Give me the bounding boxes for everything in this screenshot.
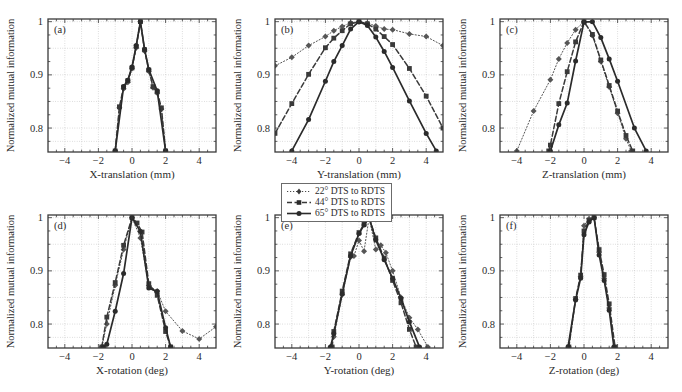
legend-item-1: 44° DTS to RDTS bbox=[286, 197, 385, 208]
series-dotted bbox=[327, 215, 430, 350]
x-tick-label: −2 bbox=[545, 155, 556, 166]
y-tick-label: 1 bbox=[265, 212, 270, 223]
x-tick-label: 2 bbox=[163, 351, 168, 362]
y-tick-label: 0.8 bbox=[482, 319, 495, 330]
y-tick-label: 0.8 bbox=[482, 123, 495, 134]
y-tick-label: 0.8 bbox=[30, 319, 43, 330]
gridlines bbox=[48, 215, 216, 348]
y-axis-title: Normalized mutual information bbox=[457, 18, 468, 152]
legend-item-0: 22° DTS to RDTS bbox=[286, 186, 385, 197]
legend-label-2: 65° DTS to RDTS bbox=[315, 208, 385, 219]
series-dashed bbox=[566, 215, 617, 349]
panel-letter: (f) bbox=[506, 220, 517, 232]
legend-label-1: 44° DTS to RDTS bbox=[315, 197, 385, 208]
x-tick-label: 4 bbox=[424, 351, 430, 362]
gridlines bbox=[48, 19, 216, 152]
x-tick-label: −4 bbox=[59, 155, 71, 166]
x-tick-label: 2 bbox=[163, 155, 168, 166]
legend-line-sample-solid bbox=[286, 208, 312, 219]
y-tick-label: 1 bbox=[38, 212, 43, 223]
legend-line-sample-dashed bbox=[286, 197, 312, 208]
y-axis-title: Normalized mutual information bbox=[457, 214, 468, 348]
legend-item-2: 65° DTS to RDTS bbox=[286, 208, 385, 219]
plot-(e): −4−202410.90.8Y-rotation (deg)Normalized… bbox=[227, 196, 449, 392]
x-tick-label: 0 bbox=[356, 155, 361, 166]
y-axis-title: Normalized mutual information bbox=[232, 214, 243, 348]
x-tick-label: 0 bbox=[356, 351, 361, 362]
x-tick-label: 0 bbox=[129, 351, 134, 362]
legend: 22° DTS to RDTS 44° DTS to RDTS 65° DTS … bbox=[281, 183, 392, 222]
x-axis-title: Y-rotation (deg) bbox=[324, 364, 395, 377]
panel-b: −4−202410.90.8Y-translation (mm)Normaliz… bbox=[227, 0, 449, 196]
x-tick-label: 4 bbox=[649, 155, 655, 166]
series-dotted bbox=[566, 215, 617, 350]
y-tick-label: 1 bbox=[490, 16, 495, 27]
y-tick-label: 0.8 bbox=[257, 319, 270, 330]
panel-letter: (d) bbox=[54, 220, 67, 232]
y-tick-label: 0.9 bbox=[30, 69, 43, 80]
plot-(b): −4−202410.90.8Y-translation (mm)Normaliz… bbox=[227, 0, 449, 196]
x-tick-label: −4 bbox=[511, 351, 523, 362]
y-tick-label: 0.9 bbox=[30, 265, 43, 276]
panel-letter: (b) bbox=[281, 24, 294, 36]
y-tick-label: 0.9 bbox=[257, 265, 270, 276]
x-tick-label: −2 bbox=[93, 351, 104, 362]
x-tick-label: −2 bbox=[545, 351, 556, 362]
y-axis-title: Normalized mutual information bbox=[5, 214, 16, 348]
x-tick-label: 2 bbox=[615, 351, 620, 362]
figure-container: −4−202410.90.8X-translation (mm)Normaliz… bbox=[0, 0, 682, 392]
series-dotted bbox=[514, 19, 634, 154]
y-tick-label: 1 bbox=[490, 212, 495, 223]
x-tick-label: −2 bbox=[320, 351, 331, 362]
x-tick-label: −4 bbox=[286, 155, 298, 166]
x-tick-label: 2 bbox=[615, 155, 620, 166]
plot-(f): −4−202410.90.8Z-rotation (deg)Normalized… bbox=[452, 196, 674, 392]
panel-e: −4−202410.90.8Y-rotation (deg)Normalized… bbox=[227, 196, 449, 392]
x-tick-label: 2 bbox=[390, 155, 395, 166]
plot-(a): −4−202410.90.8X-translation (mm)Normaliz… bbox=[0, 0, 222, 196]
gridlines bbox=[275, 19, 443, 152]
y-axis-title: Normalized mutual information bbox=[5, 18, 16, 152]
series-dotted bbox=[112, 19, 168, 154]
y-tick-label: 1 bbox=[38, 16, 43, 27]
y-tick-label: 0.8 bbox=[30, 123, 43, 134]
panel-d: −4−202410.90.8X-rotation (deg)Normalized… bbox=[0, 196, 222, 392]
x-axis-title: X-translation (mm) bbox=[89, 168, 175, 181]
series-solid bbox=[113, 19, 168, 153]
x-tick-label: −4 bbox=[511, 155, 523, 166]
x-tick-label: 4 bbox=[424, 155, 430, 166]
x-tick-label: −2 bbox=[320, 155, 331, 166]
series-solid bbox=[289, 19, 438, 153]
series-dashed bbox=[113, 19, 168, 153]
y-tick-label: 0.9 bbox=[482, 265, 495, 276]
x-axis-title: Y-translation (mm) bbox=[317, 168, 401, 181]
y-tick-label: 0.8 bbox=[257, 123, 270, 134]
panel-letter: (c) bbox=[506, 24, 518, 36]
x-tick-label: 4 bbox=[197, 351, 203, 362]
series-dashed bbox=[273, 19, 446, 136]
x-tick-label: 0 bbox=[581, 351, 586, 362]
legend-line-sample-dotted bbox=[286, 186, 312, 197]
legend-label-0: 22° DTS to RDTS bbox=[315, 186, 385, 197]
panel-a: −4−202410.90.8X-translation (mm)Normaliz… bbox=[0, 0, 222, 196]
panel-letter: (a) bbox=[54, 24, 66, 36]
x-axis-title: Z-rotation (deg) bbox=[549, 364, 620, 377]
panel-f: −4−202410.90.8Z-rotation (deg)Normalized… bbox=[452, 196, 674, 392]
x-tick-label: −4 bbox=[59, 351, 71, 362]
x-tick-label: 0 bbox=[581, 155, 586, 166]
panel-c: −4−202410.90.8Z-translation (mm)Normaliz… bbox=[452, 0, 674, 196]
y-tick-label: 0.9 bbox=[482, 69, 495, 80]
series-dashed bbox=[546, 19, 635, 153]
x-tick-label: 4 bbox=[197, 155, 203, 166]
series-solid bbox=[101, 215, 173, 349]
plot-(d): −4−202410.90.8X-rotation (deg)Normalized… bbox=[0, 196, 222, 392]
x-tick-label: 2 bbox=[390, 351, 395, 362]
x-tick-label: −2 bbox=[93, 155, 104, 166]
x-tick-label: 4 bbox=[649, 351, 655, 362]
x-axis-title: X-rotation (deg) bbox=[96, 364, 168, 377]
x-tick-label: −4 bbox=[286, 351, 298, 362]
series-solid bbox=[566, 215, 617, 349]
x-axis-title: Z-translation (mm) bbox=[542, 168, 626, 181]
x-tick-label: 0 bbox=[129, 155, 134, 166]
y-tick-label: 1 bbox=[265, 16, 270, 27]
